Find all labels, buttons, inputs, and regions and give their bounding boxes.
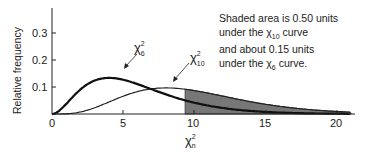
annotation-note: Shaded area is 0.50 units under the χ10 … xyxy=(219,12,338,74)
x-tick-label: 15 xyxy=(259,117,271,129)
chi2-10-label: χ210 xyxy=(190,50,205,67)
x-tick-label: 10 xyxy=(187,117,199,129)
x-axis-label: χ2n xyxy=(185,133,196,149)
x-tick-label: 20 xyxy=(330,117,342,129)
chi2-6-arrow xyxy=(126,54,137,66)
y-tick-label: 0.3 xyxy=(32,27,47,39)
y-tick-label: 0.2 xyxy=(32,54,47,66)
chi2-10-arrow xyxy=(175,63,189,79)
y-axis-label: Relative frequency xyxy=(11,26,23,114)
y-ticks xyxy=(52,33,56,87)
x-tick-label: 5 xyxy=(120,117,126,129)
x-tick-label: 0 xyxy=(49,117,55,129)
chi2-6-label: χ26 xyxy=(134,40,145,57)
y-tick-label: 0.1 xyxy=(32,81,47,93)
